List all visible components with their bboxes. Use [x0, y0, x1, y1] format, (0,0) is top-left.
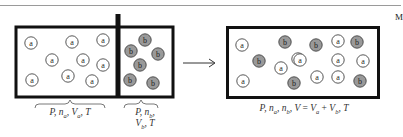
molecule-a: a: [332, 35, 344, 47]
svg-text:b: b: [129, 47, 133, 56]
molecule-a: a: [332, 71, 344, 83]
molecule-b: b: [354, 75, 366, 87]
molecule-b: b: [279, 36, 291, 48]
svg-text:b: b: [358, 77, 362, 86]
svg-text:b: b: [151, 79, 155, 88]
molecule-a: a: [357, 55, 369, 67]
svg-text:a: a: [30, 76, 34, 85]
molecule-a: a: [97, 34, 109, 46]
svg-text:a: a: [298, 56, 302, 65]
molecule-b: b: [152, 48, 164, 60]
svg-text:a: a: [81, 56, 85, 65]
molecules-before: aaaaaaaaabbbbbb: [25, 34, 164, 89]
svg-text:b: b: [138, 61, 142, 70]
molecule-a: a: [86, 75, 98, 87]
molecule-b: b: [310, 39, 322, 51]
molecule-a: a: [275, 62, 287, 74]
molecule-a: a: [294, 54, 306, 66]
molecule-a: a: [237, 75, 249, 87]
molecules-after: aaaaaaaaaabbbbbb: [236, 35, 369, 89]
svg-text:a: a: [336, 73, 340, 82]
svg-text:a: a: [336, 56, 340, 65]
svg-text:b: b: [257, 57, 261, 66]
svg-text:a: a: [29, 39, 33, 48]
left-caption: P, na, Va, T: [34, 107, 106, 118]
svg-text:b: b: [283, 38, 287, 47]
svg-text:b: b: [128, 76, 132, 85]
molecule-a: a: [311, 71, 323, 83]
molecule-b: b: [125, 45, 137, 57]
svg-text:a: a: [279, 64, 283, 73]
right-caption: P, nb, Vb, T: [122, 107, 168, 129]
svg-text:a: a: [361, 57, 365, 66]
molecule-b: b: [351, 36, 363, 48]
svg-text:b: b: [314, 41, 318, 50]
molecule-a: a: [46, 54, 58, 66]
svg-text:b: b: [156, 50, 160, 59]
svg-text:a: a: [101, 61, 105, 70]
svg-text:b: b: [143, 36, 147, 45]
svg-text:a: a: [336, 37, 340, 46]
molecule-b: b: [124, 74, 136, 86]
molecule-b: b: [253, 55, 265, 67]
molecule-b: b: [134, 59, 146, 71]
svg-text:a: a: [241, 77, 245, 86]
molecule-b: b: [139, 34, 151, 46]
svg-text:a: a: [240, 41, 244, 50]
svg-text:a: a: [315, 73, 319, 82]
molecule-a: a: [77, 54, 89, 66]
molecule-a: a: [332, 54, 344, 66]
molecule-a: a: [97, 59, 109, 71]
svg-text:b: b: [355, 38, 359, 47]
svg-text:a: a: [66, 72, 70, 81]
svg-text:b: b: [292, 79, 296, 88]
partition-wall: [116, 14, 121, 98]
molecule-b: b: [147, 77, 159, 89]
molecule-a: a: [236, 39, 248, 51]
molecule-b: b: [288, 77, 300, 89]
molecule-a: a: [26, 74, 38, 86]
svg-text:a: a: [50, 56, 54, 65]
svg-text:a: a: [90, 77, 94, 86]
svg-text:a: a: [70, 38, 74, 47]
molecule-a: a: [66, 36, 78, 48]
mixed-caption: P, na, nb, V = Va + Vb, T: [240, 103, 368, 114]
molecule-a: a: [62, 70, 74, 82]
svg-text:a: a: [101, 36, 105, 45]
molecule-a: a: [25, 37, 37, 49]
